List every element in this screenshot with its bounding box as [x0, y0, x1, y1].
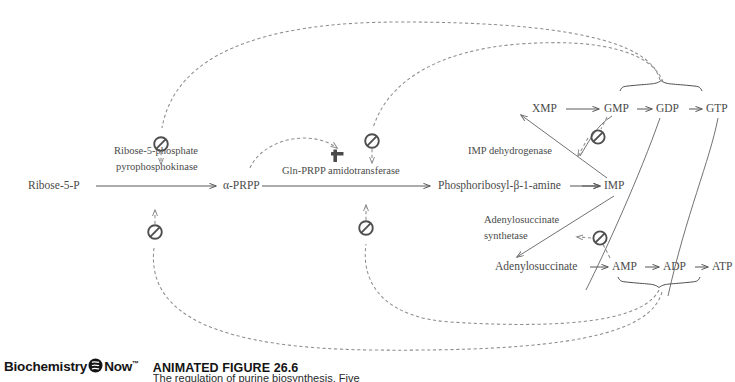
metabolite-gmp: GMP	[604, 102, 629, 114]
arrow-amp-inhibits-adss	[577, 237, 591, 238]
metabolite-gdp: GDP	[656, 102, 679, 114]
enzyme-adenylosuccinate-synthetase-line1: Adenylosuccinate	[484, 214, 560, 225]
metabolite-amp: AMP	[612, 260, 637, 272]
biochemistry-now-logo: BiochemistryNow™	[4, 358, 139, 376]
enzyme-adenylosuccinate-synthetase-line2: synthetase	[484, 230, 528, 241]
figure-caption-clipped: The regulation of purine biosynthesis. F…	[153, 373, 360, 382]
inhibition-symbol-amidotransferase-top	[365, 134, 379, 148]
brace-adenine-nucleotides	[618, 277, 700, 288]
dash-gmp-to-inhibitor	[601, 117, 607, 129]
arrow-prpp-activates-amidotransferase	[250, 138, 337, 168]
feedback-guanine-to-amidotransferase	[373, 43, 663, 128]
metabolite-alpha-prpp: α-PRPP	[223, 179, 260, 191]
metabolite-phosphoribosyl-beta-1-amine: Phosphoribosyl-β-1-amine	[438, 179, 561, 192]
figure-caption-block: ANIMATED FIGURE 26.6 The regulation of p…	[153, 359, 299, 375]
trademark-symbol: ™	[132, 359, 139, 366]
activation-plus-symbol	[331, 150, 344, 163]
inhibition-symbol-r5p-kinase-bottom	[148, 225, 162, 239]
enzyme-r5p-pyrophosphokinase-line1: Ribose-5-phosphate	[114, 145, 198, 156]
enzyme-imp-dehydrogenase: IMP dehydrogenase	[468, 145, 552, 156]
brand-name-secondary: Now	[104, 359, 132, 374]
figure-footer: BiochemistryNow™ ANIMATED FIGURE 26.6 Th…	[0, 347, 735, 377]
curve-gmp-hook	[580, 116, 612, 156]
inhibition-symbol-imp-dehydrogenase	[591, 130, 604, 143]
inhibition-symbol-adenylosuccinate-synthetase	[593, 231, 606, 244]
feedback-adenine-to-r5p-kinase	[153, 248, 662, 350]
enzyme-gln-prpp-amidotransferase: Gln-PRPP amidotransferase	[282, 165, 400, 176]
brand-name-primary: Biochemistry	[4, 359, 87, 374]
metabolite-xmp: XMP	[532, 102, 557, 114]
metabolite-atp: ATP	[712, 260, 732, 272]
inhibition-symbol-amidotransferase-bottom	[359, 221, 373, 235]
feedback-guanine-to-r5p-kinase	[162, 22, 660, 128]
brace-guanine-nucleotides	[620, 81, 702, 92]
dash-amp-to-inhibitor	[602, 243, 610, 258]
metabolite-gtp: GTP	[706, 102, 728, 114]
metabolite-adenylosuccinate: Adenylosuccinate	[495, 260, 577, 273]
arrow-imp-to-adenylosuccinate	[517, 196, 614, 257]
arrow-gmp-inhibits-impdh	[578, 138, 588, 156]
feedback-adenine-to-amidotransferase	[365, 244, 659, 324]
brand-swirl-icon	[88, 358, 103, 376]
enzyme-r5p-pyrophosphokinase-line2: pyrophosphokinase	[116, 161, 198, 172]
metabolite-imp: IMP	[604, 179, 624, 191]
metabolite-ribose-5-p: Ribose-5-P	[28, 179, 80, 191]
